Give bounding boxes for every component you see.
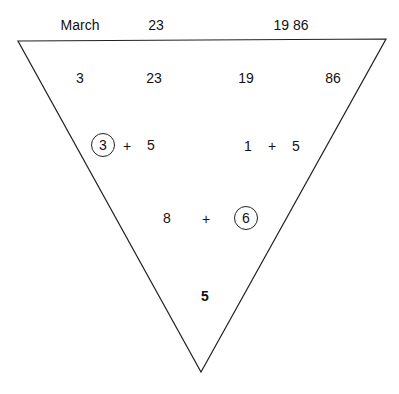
row1-value-2: 23: [146, 70, 162, 86]
row3-a: 8: [163, 210, 171, 226]
header-month: March: [61, 17, 100, 33]
inverted-triangle: [0, 0, 399, 394]
row2-right-a: 1: [244, 138, 252, 154]
row1-value-1: 3: [76, 70, 84, 86]
row1-value-3: 19: [238, 70, 254, 86]
row2-left-op: +: [123, 138, 131, 154]
result-value: 5: [201, 288, 209, 304]
row3-b: 6: [242, 210, 250, 226]
header-day: 23: [148, 17, 164, 33]
header-year: 19 86: [273, 17, 308, 33]
row3-op: +: [202, 211, 210, 227]
row1-value-4: 86: [325, 70, 341, 86]
row2-left-b: 5: [147, 137, 155, 153]
row2-right-b: 5: [292, 138, 300, 154]
row2-left-a: 3: [99, 137, 107, 153]
row2-right-op: +: [268, 138, 276, 154]
